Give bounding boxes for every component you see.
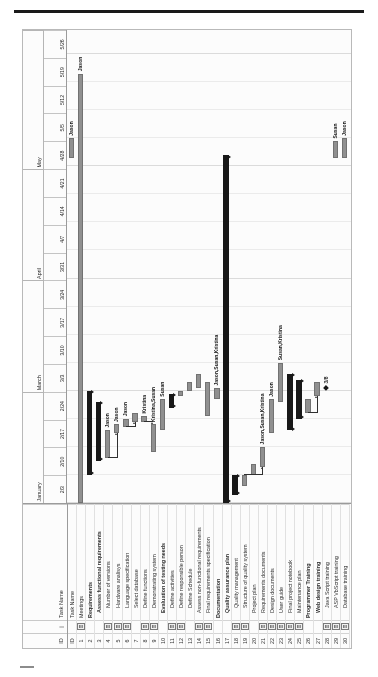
- table-row[interactable]: 12Define responsible person: [177, 504, 186, 648]
- row-task-name[interactable]: Hardware analisys: [113, 504, 121, 620]
- summary-bar[interactable]: [87, 391, 93, 475]
- task-bar[interactable]: [187, 382, 192, 390]
- table-row[interactable]: 3Assess functional requirements: [95, 504, 104, 648]
- row-task-name[interactable]: Maintenance plan: [295, 504, 303, 620]
- column-header-id[interactable]: ID: [23, 633, 67, 648]
- note-icon[interactable]: [259, 624, 267, 631]
- summary-bar[interactable]: [96, 402, 102, 461]
- row-task-name[interactable]: Final requirements specification: [204, 504, 212, 620]
- table-row[interactable]: 7Select database: [132, 504, 141, 648]
- row-task-name[interactable]: ASP VbScript training: [332, 504, 340, 620]
- row-indicator[interactable]: [150, 620, 158, 633]
- note-icon[interactable]: [232, 624, 240, 631]
- row-indicator[interactable]: [286, 620, 294, 633]
- table-row[interactable]: 19Structure of quality system: [241, 504, 250, 648]
- row-task-name[interactable]: Number of versions: [104, 504, 112, 620]
- table-row[interactable]: 28Java Script training: [323, 504, 332, 648]
- row-task-name[interactable]: Programmer Training: [304, 504, 312, 620]
- task-bar[interactable]: [269, 399, 274, 433]
- table-row[interactable]: 29ASP VbScript training: [332, 504, 341, 648]
- table-row[interactable]: 1Meetings: [77, 504, 86, 648]
- table-row[interactable]: 9Demonstrating system: [150, 504, 159, 648]
- row-indicator[interactable]: [204, 620, 212, 633]
- table-row[interactable]: 17Quality assurance plan: [223, 504, 232, 648]
- table-row[interactable]: 24Final project notebook: [286, 504, 295, 648]
- row-indicator[interactable]: [77, 620, 85, 633]
- table-row[interactable]: 4Number of versions: [104, 504, 113, 648]
- table-row[interactable]: 27Web design training: [314, 504, 323, 648]
- table-row[interactable]: 16Documentation: [214, 504, 223, 648]
- gantt-pane[interactable]: JanuaryMarchAprilMay 2/32/102/172/243/33…: [23, 30, 351, 503]
- row-indicator[interactable]: [314, 620, 322, 633]
- task-bar[interactable]: [196, 374, 201, 388]
- row-task-name[interactable]: Java Script training: [323, 504, 331, 620]
- row-indicator[interactable]: [177, 620, 185, 633]
- row-task-name[interactable]: Quality management: [232, 504, 240, 620]
- row-indicator[interactable]: [113, 620, 121, 633]
- row-indicator[interactable]: [232, 620, 240, 633]
- row-task-name[interactable]: Define activities: [168, 504, 176, 620]
- row-indicator[interactable]: [168, 620, 176, 633]
- table-row[interactable]: 21Requirements documents: [259, 504, 268, 648]
- task-bar[interactable]: [205, 382, 210, 416]
- task-bar[interactable]: [342, 138, 347, 158]
- task-bar[interactable]: [305, 399, 310, 413]
- row-indicator[interactable]: [132, 620, 140, 633]
- row-indicator[interactable]: [214, 620, 222, 633]
- row-task-name[interactable]: Final project notebook: [286, 504, 294, 620]
- table-row[interactable]: IDTask Name: [68, 504, 77, 648]
- table-row[interactable]: 2Requirements: [86, 504, 95, 648]
- table-row[interactable]: 8Define functions: [141, 504, 150, 648]
- task-bar[interactable]: [69, 138, 74, 158]
- note-icon[interactable]: [332, 624, 340, 631]
- row-task-name[interactable]: User guide: [277, 504, 285, 620]
- task-bar[interactable]: [132, 413, 137, 421]
- summary-bar[interactable]: [223, 155, 229, 503]
- note-icon[interactable]: [195, 624, 203, 631]
- row-task-name[interactable]: Define responsible person: [177, 504, 185, 620]
- task-bar[interactable]: [214, 388, 219, 399]
- note-icon[interactable]: [104, 624, 112, 631]
- row-task-name[interactable]: Project plan: [250, 504, 258, 620]
- row-task-name[interactable]: Demonstrating system: [150, 504, 158, 620]
- row-task-name[interactable]: Define functions: [141, 504, 149, 620]
- summary-bar[interactable]: [169, 394, 175, 408]
- task-bar[interactable]: [314, 382, 319, 396]
- note-icon[interactable]: [277, 624, 285, 631]
- row-indicator[interactable]: [304, 620, 312, 633]
- row-indicator[interactable]: [268, 620, 276, 633]
- row-indicator[interactable]: [323, 620, 331, 633]
- row-task-name[interactable]: Design documents: [268, 504, 276, 620]
- note-icon[interactable]: [204, 624, 212, 631]
- column-header-indicator[interactable]: i: [23, 620, 67, 633]
- row-indicator[interactable]: [259, 620, 267, 633]
- task-bar[interactable]: [151, 424, 156, 452]
- row-indicator[interactable]: [141, 620, 149, 633]
- row-task-name[interactable]: Language specification: [123, 504, 131, 620]
- table-row[interactable]: 5Hardware analisys: [113, 504, 122, 648]
- note-icon[interactable]: [123, 624, 131, 631]
- row-indicator[interactable]: [195, 620, 203, 633]
- table-row[interactable]: 23User guide: [277, 504, 286, 648]
- task-bar[interactable]: [178, 391, 183, 397]
- table-row[interactable]: 6Language specification: [123, 504, 132, 648]
- row-indicator[interactable]: [123, 620, 131, 633]
- row-indicator[interactable]: [104, 620, 112, 633]
- row-indicator[interactable]: [277, 620, 285, 633]
- table-row[interactable]: 15Final requirements specification: [204, 504, 213, 648]
- row-indicator[interactable]: [159, 620, 167, 633]
- row-task-name[interactable]: Assess functional requirements: [95, 504, 103, 620]
- task-bar[interactable]: [278, 363, 283, 402]
- row-task-name[interactable]: Web design training: [314, 504, 322, 620]
- note-icon[interactable]: [168, 624, 176, 631]
- row-task-name[interactable]: Documentation: [214, 504, 222, 620]
- note-icon[interactable]: [77, 624, 85, 631]
- table-row[interactable]: 13Define Schedule: [186, 504, 195, 648]
- row-indicator[interactable]: [68, 620, 76, 633]
- table-row[interactable]: 11Define activities: [168, 504, 177, 648]
- row-task-name[interactable]: Requirements documents: [259, 504, 267, 620]
- task-bar[interactable]: [78, 74, 83, 503]
- row-task-name[interactable]: Structure of quality system: [241, 504, 249, 620]
- column-header-task-name[interactable]: Task Name: [23, 504, 67, 620]
- row-indicator[interactable]: [186, 620, 194, 633]
